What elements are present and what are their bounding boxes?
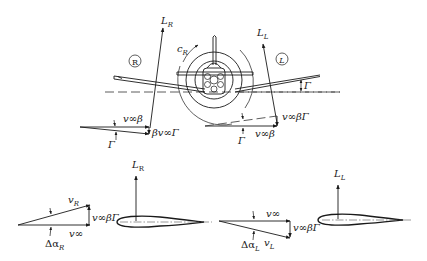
airfoil-right-lift-label: LR	[131, 159, 145, 173]
propeller-disc	[186, 52, 242, 108]
right-triangle-top-label: v∞β	[123, 113, 143, 124]
svg-text:LL: LL	[256, 27, 269, 41]
airfoil-right-resultant-label: vR	[68, 194, 80, 208]
right-velocity-triangle: v∞β βv∞Γ Γ	[80, 113, 180, 150]
airfoil-right-freestream-label: v∞	[69, 228, 83, 239]
lift-vector-left: LL	[256, 27, 277, 123]
airfoil-left-shape	[318, 214, 403, 225]
lift-vector-right: LR	[150, 15, 174, 128]
right-wing	[114, 76, 205, 92]
airfoil-left-lift-label: LL	[333, 168, 346, 182]
airfoil-left-angle-label: ΔαL	[241, 239, 260, 253]
roll-moment-label: cR	[177, 43, 189, 57]
airfoil-left-resultant-label: vL	[264, 237, 275, 251]
left-triangle-bottom-label: v∞β	[255, 128, 275, 139]
airfoil-right-vertical-label: v∞βΓ	[92, 212, 120, 223]
airfoil-left-vertical-label: v∞βΓ	[293, 222, 321, 233]
right-triangle-angle-label: Γ	[107, 139, 116, 150]
right-triangle-side-label: βv∞Γ	[151, 127, 180, 138]
airfoil-right-section: vR v∞ v∞βΓ ΔαR LR	[18, 159, 212, 252]
left-triangle-side-label: v∞βΓ	[282, 111, 310, 122]
cowling	[195, 61, 233, 99]
left-triangle-angle-label: Γ	[237, 135, 246, 146]
left-velocity-triangle: v∞βΓ v∞β Γ	[205, 111, 310, 146]
dihedral-angle-label: Γ	[303, 80, 312, 91]
airfoil-right-angle-label: ΔαR	[45, 238, 65, 252]
svg-text:L: L	[278, 56, 284, 65]
svg-text:R: R	[132, 58, 139, 67]
airfoil-left-section: v∞ vL v∞βΓ ΔαL LL	[219, 168, 412, 253]
airfoil-left-freestream-label: v∞	[266, 208, 280, 219]
svg-text:LR: LR	[160, 15, 174, 29]
dihedral-effect-diagram: cR R L Γ LR LL v∞β βv∞Γ Γ	[0, 0, 427, 261]
airfoil-right-shape	[117, 216, 204, 227]
